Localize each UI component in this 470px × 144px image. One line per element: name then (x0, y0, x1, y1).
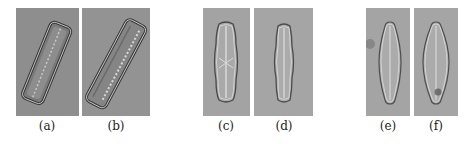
panel-label-b: (b) (96, 119, 136, 133)
diatom-image-d (254, 8, 313, 116)
panel-label-a: (a) (27, 119, 67, 133)
diatom-image-e (366, 8, 410, 116)
panel-label-f: (f) (416, 119, 456, 133)
panel-label-c: (c) (206, 119, 246, 133)
diatom-image-c (203, 8, 250, 116)
image-panel-a (16, 8, 79, 116)
image-panel-e (366, 8, 410, 116)
diatom-image-f (414, 8, 458, 116)
image-panel-c (203, 8, 250, 116)
panel-label-e: (e) (368, 119, 408, 133)
image-panel-d (254, 8, 313, 116)
image-panel-b (82, 8, 150, 116)
image-panel-f (414, 8, 458, 116)
diatom-image-b (82, 8, 150, 116)
panel-label-d: (d) (264, 119, 304, 133)
diatom-image-a (16, 8, 79, 116)
